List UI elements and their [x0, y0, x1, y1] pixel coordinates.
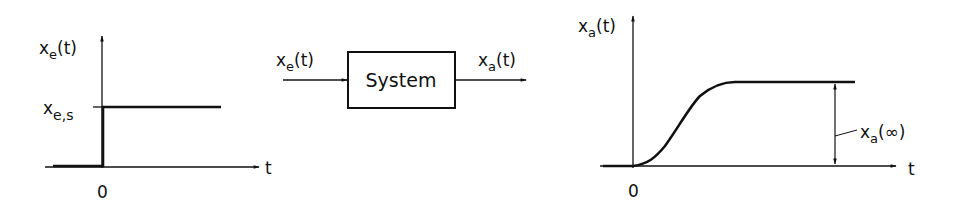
- step-level-label: xe,s: [43, 98, 73, 123]
- y-axis-label: xa(t): [578, 16, 616, 40]
- response-curve: [603, 82, 855, 166]
- output-signal-label: xa(t): [478, 50, 516, 74]
- final-value-label: xa(∞): [860, 122, 905, 146]
- final-value-leader: [835, 130, 857, 136]
- input-signal-label: xe(t): [276, 50, 314, 74]
- input-step-chart: xe(t) xe,s t 0: [39, 36, 272, 202]
- t-axis-label: t: [265, 158, 272, 178]
- system-block-diagram: System xe(t) xa(t): [276, 50, 526, 108]
- step-response-diagram: xe(t) xe,s t 0 System xe(t) xa(t) xa(t) …: [0, 0, 956, 208]
- t-axis-label: t: [908, 159, 915, 179]
- origin-label: 0: [628, 181, 639, 201]
- step-signal: [53, 107, 221, 166]
- system-label: System: [366, 69, 437, 91]
- y-axis-label: xe(t): [39, 38, 77, 62]
- output-response-chart: xa(t) xa(∞) t 0: [578, 16, 915, 201]
- diagram-canvas: xe(t) xe,s t 0 System xe(t) xa(t) xa(t) …: [0, 0, 956, 208]
- origin-label: 0: [97, 182, 108, 202]
